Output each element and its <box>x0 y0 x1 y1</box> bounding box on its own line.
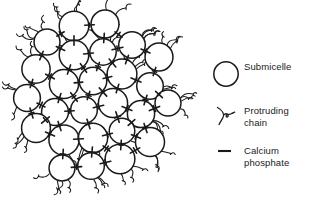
protruding-chain <box>181 109 186 115</box>
legend-label-calcium-phosphate: Calcium phosphate <box>244 144 289 168</box>
submicelle-circle <box>14 85 41 112</box>
protruding-chain <box>14 107 17 114</box>
protruding-chain-loop <box>25 146 27 152</box>
protruding-chain <box>144 34 154 38</box>
submicelle-circle <box>34 29 60 55</box>
protruding-chain-loop <box>53 3 57 7</box>
protruding-chain <box>94 180 97 188</box>
protruding-chain <box>20 50 28 57</box>
protruding-chain-loop <box>13 143 16 148</box>
protruding-chain-loop <box>101 185 104 188</box>
submicelle-circle-icon <box>208 60 244 88</box>
legend-item-protruding-chain: Protruding chain <box>208 104 323 128</box>
protruding-chain-icon <box>208 104 244 128</box>
protruding-chain-loop <box>30 41 33 46</box>
legend-item-submicelle: Submicelle <box>208 60 323 88</box>
submicelle-circle <box>22 55 50 83</box>
protruding-chain <box>39 174 50 177</box>
submicelle-circle <box>71 97 98 124</box>
protruding-chain <box>116 8 126 15</box>
protruding-chain-loop <box>162 126 168 129</box>
protruding-chain-loop <box>122 181 125 185</box>
protruding-chain-loop <box>54 188 58 195</box>
protruding-chain-loop <box>3 82 10 85</box>
protruding-chain-loop <box>142 169 147 171</box>
legend: Submicelle Protruding chain Ca <box>200 0 323 202</box>
protruding-chain-loop <box>156 167 159 172</box>
protruding-chain-loop <box>34 175 39 179</box>
protruding-chain-loop <box>130 177 133 182</box>
protruding-chain <box>182 98 191 101</box>
protruding-chain-loop <box>17 34 24 37</box>
protruding-chain-loop <box>2 87 8 89</box>
protruding-chain <box>162 37 163 44</box>
protruding-chain <box>30 46 32 55</box>
calcium-phosphate-link <box>88 50 89 56</box>
protruding-chain <box>106 0 109 10</box>
protruding-chain <box>161 151 171 154</box>
protruding-chain-loop <box>171 87 175 89</box>
protruding-chain-loop <box>170 153 175 155</box>
submicelle-circle <box>119 32 146 59</box>
protruding-chain-loop <box>177 37 182 42</box>
legend-label-protruding-chain: Protruding chain <box>244 104 289 128</box>
submicelle-circle <box>135 127 164 156</box>
protruding-chain-loop <box>41 15 44 22</box>
protruding-chain-loop <box>68 187 71 192</box>
protruding-chain-loop <box>15 138 18 144</box>
casein-micelle-illustration <box>0 0 200 202</box>
protruding-chain-loop <box>162 32 164 38</box>
protruding-chain-loop <box>12 113 15 120</box>
protruding-chain <box>164 87 172 89</box>
protruding-chain <box>27 30 34 38</box>
submicelle-circle <box>49 69 78 98</box>
short-dash-icon <box>208 144 244 158</box>
micelle-diagram-panel <box>0 0 200 202</box>
legend-label-submicelle: Submicelle <box>244 60 291 73</box>
submicelles-layer <box>14 10 181 181</box>
protruding-chain <box>41 22 43 29</box>
protruding-chain-loop <box>16 46 22 50</box>
submicelle-circle <box>145 43 173 71</box>
protruding-chain <box>132 166 143 169</box>
calcium-phosphate-link <box>117 46 118 51</box>
legend-item-calcium-phosphate: Calcium phosphate <box>208 144 323 168</box>
protruding-chain <box>68 180 70 187</box>
protruding-chain <box>29 28 38 32</box>
protruding-chain-loop <box>58 190 61 194</box>
protruding-chain-loop <box>25 26 30 28</box>
submicelle-circle <box>22 114 51 143</box>
protruding-chain-loop <box>193 93 197 96</box>
protruding-chain-loop <box>184 115 188 118</box>
protruding-chain-loop <box>126 4 131 10</box>
protruding-chain-loop <box>95 188 99 193</box>
protruding-chain <box>170 41 176 48</box>
figure-root: Submicelle Protruding chain Ca <box>0 0 323 202</box>
